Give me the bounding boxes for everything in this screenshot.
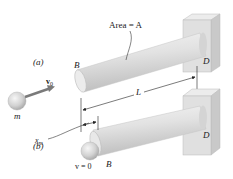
end-b-bottom-label: B: [106, 159, 112, 169]
velocity-arrow: [25, 88, 51, 97]
area-label: Area = A: [109, 20, 143, 30]
length-label: L: [135, 87, 141, 97]
part-a-label: (a): [33, 57, 44, 67]
end-d-bottom-label: D: [202, 130, 210, 140]
final-velocity-label: v = 0: [75, 162, 92, 171]
xm-leader-line: [48, 123, 89, 139]
ball-mass-stopped: [81, 142, 99, 160]
rod-impact-diagram: Area = A (a) B D m v0 L xm (b) B D v = 0: [0, 0, 233, 179]
ball-mass: [8, 92, 26, 110]
v0-label: v0: [46, 77, 53, 87]
end-b-top-label: B: [74, 60, 80, 70]
part-b-label: (b): [33, 141, 44, 151]
mass-label: m: [14, 111, 21, 121]
end-d-top-label: D: [202, 56, 210, 66]
